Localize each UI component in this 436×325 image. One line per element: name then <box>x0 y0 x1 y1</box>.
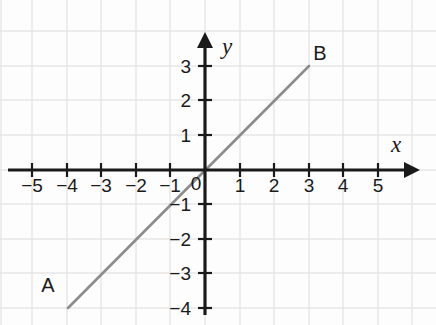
point-a-label: A <box>41 274 55 296</box>
y-tick-label: −3 <box>169 263 191 284</box>
x-axis-label: x <box>390 132 402 157</box>
graph-canvas: −5 −4 −3 −2 −1 1 2 3 4 5 3 2 1 −1 −2 −3 … <box>0 0 436 325</box>
y-tick-label: 2 <box>180 90 191 111</box>
x-tick-label: 4 <box>338 175 349 196</box>
point-b-label: B <box>313 42 326 64</box>
x-tick-label: −3 <box>90 175 112 196</box>
x-tick-label: −5 <box>21 175 43 196</box>
y-axis-label: y <box>220 34 233 59</box>
coordinate-plane-figure: −5 −4 −3 −2 −1 1 2 3 4 5 3 2 1 −1 −2 −3 … <box>0 0 436 325</box>
y-tick-label: 3 <box>180 56 191 77</box>
x-tick-label: 5 <box>373 175 384 196</box>
x-tick-label: −2 <box>125 175 147 196</box>
y-tick-label: −2 <box>169 229 191 250</box>
x-tick-label: 1 <box>235 175 246 196</box>
y-tick-label: 1 <box>180 125 191 146</box>
x-tick-label: 2 <box>269 175 280 196</box>
x-tick-label: −4 <box>56 175 78 196</box>
y-tick-label: −4 <box>169 298 191 319</box>
y-tick-label: −1 <box>169 194 191 215</box>
x-tick-label: 3 <box>304 175 315 196</box>
x-tick-label: −1 <box>159 175 181 196</box>
origin-label: 0 <box>191 173 202 194</box>
figure-background <box>0 0 436 325</box>
